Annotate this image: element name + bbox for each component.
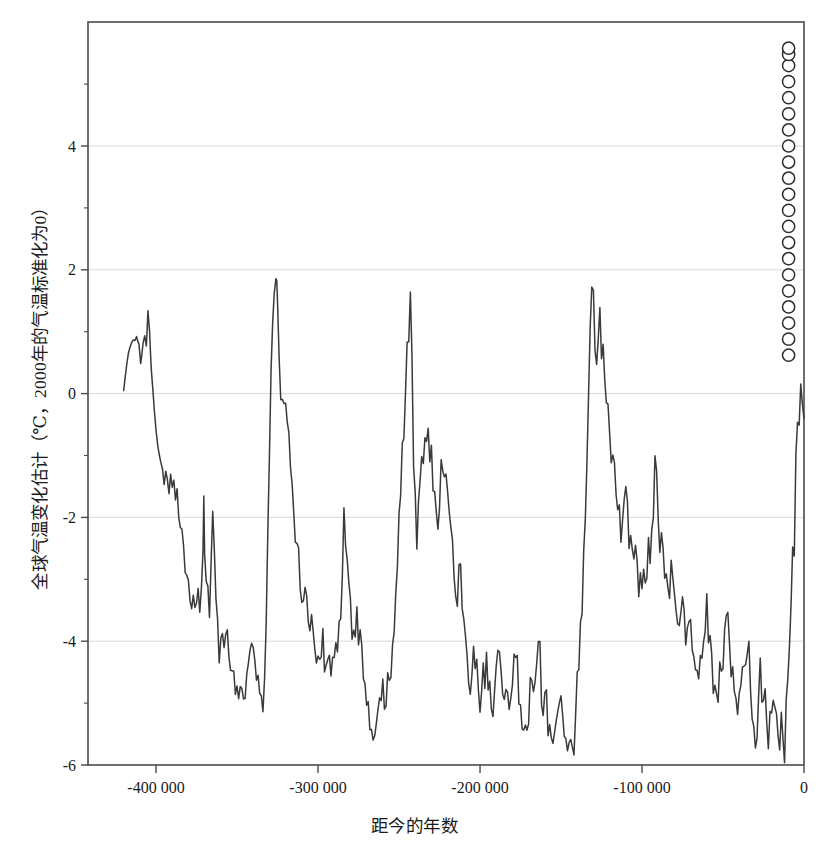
projection-marker [783,140,795,152]
y-tick-label: 0 [68,385,76,402]
chart-canvas: 420-2-4-6 -400 000-300 000-200 000-100 0… [0,0,829,853]
chart-figure: 420-2-4-6 -400 000-300 000-200 000-100 0… [0,0,829,853]
y-tick-label: -2 [63,509,76,526]
x-axis-label-text: 距今的年数 [371,816,458,836]
projection-marker [783,156,795,168]
projection-marker [783,124,795,136]
x-tick-label: -200 000 [451,779,508,796]
projection-marker [783,301,795,313]
projection-marker [783,269,795,281]
gridlines [89,146,803,641]
x-tick-label: -100 000 [613,779,670,796]
projection-marker [783,42,795,54]
projection-marker [783,333,795,345]
x-tick-label: 0 [800,779,808,796]
x-axis-ticks: -400 000-300 000-200 000-100 0000 [127,765,808,796]
projection-marker [783,253,795,265]
y-axis-ticks: 420-2-4-6 [63,84,88,773]
projection-marker [783,349,795,361]
projection-marker-group [783,42,795,361]
projection-marker [783,59,795,71]
x-axis-label: 距今的年数 [0,812,829,837]
y-tick-label: -6 [63,757,76,774]
x-tick-label: -300 000 [289,779,346,796]
projection-marker [783,317,795,329]
projection-marker [783,285,795,297]
x-tick-label: -400 000 [127,779,184,796]
projection-marker [783,236,795,248]
projection-marker [783,188,795,200]
y-tick-label: -4 [63,633,76,650]
projection-marker [783,108,795,120]
projection-marker [783,204,795,216]
projection-marker [783,92,795,104]
projection-marker [783,76,795,88]
temperature-series-line [124,279,804,763]
projection-marker [783,172,795,184]
y-tick-label: 4 [68,138,76,155]
projection-marker [783,220,795,232]
y-tick-label: 2 [68,261,76,278]
